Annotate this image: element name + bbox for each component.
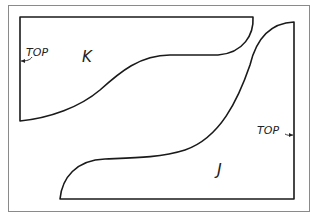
top-label-k: TOP <box>26 46 48 59</box>
outer-frame <box>9 6 310 212</box>
cutting-diagram: TOP K TOP J <box>0 0 316 217</box>
arrowhead-k-icon <box>21 59 25 63</box>
piece-k-label: K <box>82 48 93 66</box>
piece-k-outline <box>20 17 253 121</box>
arrowhead-j-icon <box>289 133 293 137</box>
top-label-j: TOP <box>257 124 279 137</box>
piece-j-outline <box>60 22 294 199</box>
piece-j-label: J <box>214 160 222 179</box>
